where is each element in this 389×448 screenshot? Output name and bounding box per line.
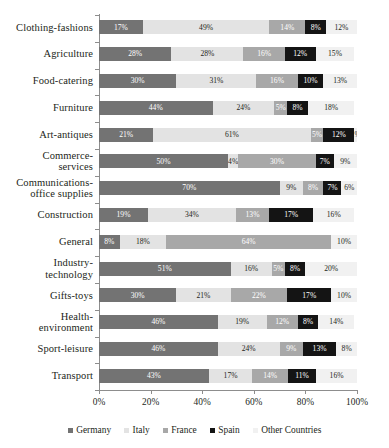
bar-segment-germany: 19% (99, 208, 148, 222)
category-label-line: Construction (0, 209, 93, 220)
bar-segment-italy: 31% (176, 74, 256, 88)
category-label-line: office supplies (0, 188, 93, 199)
category-label-line: Transport (0, 370, 93, 381)
category-tick (95, 283, 99, 284)
legend-item-spain[interactable]: Spain (210, 424, 240, 436)
category-label-transport: Transport (0, 370, 99, 381)
bar-segment-other-countries: 6% (341, 181, 356, 195)
bar-segment-italy: 16% (231, 262, 272, 276)
legend-swatch-icon (68, 428, 73, 433)
category-tick (95, 15, 99, 16)
bar-segment-other-countries: 10% (331, 235, 357, 249)
bar-segment-spain: 8% (287, 101, 308, 115)
stacked-bar: 50%4%30%7%9% (99, 154, 357, 168)
value-axis-tick-labels: 0%20%40%60%80%100% (0, 396, 389, 410)
bar-segment-france: 16% (256, 74, 297, 88)
bar-segment-other-countries: 13% (323, 74, 357, 88)
category-label-general: General (0, 236, 99, 247)
bar-segment-spain: 10% (298, 74, 324, 88)
bar-row: Sport-leisure46%24%9%13%8% (0, 336, 389, 363)
bar-segment-italy: 9% (280, 181, 303, 195)
value-axis-tick (254, 390, 255, 394)
legend-item-other-countries[interactable]: Other Countries (253, 424, 322, 436)
legend-item-germany[interactable]: Germany (68, 424, 111, 436)
category-label-industry-technology: Industry-technology (0, 257, 99, 280)
bar-track: 19%34%13%17%16% (99, 202, 357, 229)
bar-row: Industry-technology51%16%5%8%20% (0, 255, 389, 282)
bar-segment-germany: 8% (99, 235, 120, 249)
category-label-health-environment: Health-environment (0, 311, 99, 334)
bar-row: Commerce-services50%4%30%7%9% (0, 148, 389, 175)
value-axis-tick-label: 80% (297, 396, 314, 408)
bar-segment-italy: 18% (120, 235, 166, 249)
bar-segment-other-countries: 20% (305, 262, 357, 276)
category-label-agriculture: Agriculture (0, 48, 99, 59)
bar-segment-germany: 46% (99, 315, 218, 329)
bar-segment-other-countries: 9% (334, 154, 357, 168)
bar-track: 17%49%14%8%12% (99, 14, 357, 41)
bar-segment-other-countries: 10% (331, 288, 357, 302)
bar-segment-italy: 34% (148, 208, 236, 222)
bar-segment-france: 13% (236, 208, 270, 222)
bar-row: Construction19%34%13%17%16% (0, 202, 389, 229)
category-tick (95, 337, 99, 338)
stacked-bar: 51%16%5%8%20% (99, 262, 357, 276)
plot-area: Clothing-fashions17%49%14%8%12%Agricultu… (0, 14, 389, 392)
category-label-art-antiques: Art-antiques (0, 129, 99, 140)
bar-row: Art-antiques21%61%5%12%1% (0, 121, 389, 148)
stacked-bar: 17%49%14%8%12% (99, 20, 357, 34)
bar-segment-france: 9% (280, 342, 303, 356)
bar-segment-italy: 24% (213, 101, 275, 115)
bar-track: 46%24%9%13%8% (99, 336, 357, 363)
bar-segment-italy: 21% (176, 288, 230, 302)
stacked-bar: 30%31%16%10%13% (99, 74, 357, 88)
category-label-line: Sport-leisure (0, 343, 93, 354)
category-label-line: Health- (61, 311, 93, 322)
category-label-line: Art-antiques (0, 129, 93, 140)
value-axis-tick-label: 60% (245, 396, 262, 408)
bar-segment-spain: 8% (298, 315, 319, 329)
legend-item-france[interactable]: France (163, 424, 197, 436)
category-label-line: Commerce- (43, 150, 93, 161)
bar-segment-other-countries: 8% (336, 342, 357, 356)
legend-item-italy[interactable]: Italy (124, 424, 150, 436)
stacked-bar: 28%28%16%12%15% (99, 47, 357, 61)
bar-segment-germany: 30% (99, 288, 176, 302)
stacked-bar: 43%17%14%11%16% (99, 369, 357, 383)
category-label-commerce-services: Commerce-services (0, 150, 99, 173)
bar-segment-france: 64% (166, 235, 331, 249)
category-tick (95, 256, 99, 257)
category-tick (95, 203, 99, 204)
bar-segment-italy: 4% (228, 154, 238, 168)
bar-segment-france: 8% (303, 181, 324, 195)
bar-segment-other-countries: 18% (308, 101, 354, 115)
bar-segment-other-countries: 16% (313, 208, 354, 222)
bar-segment-france: 30% (238, 154, 315, 168)
bar-segment-france: 5% (272, 262, 285, 276)
bar-row: Agriculture28%28%16%12%15% (0, 41, 389, 68)
bar-segment-germany: 70% (99, 181, 280, 195)
bar-segment-france: 14% (269, 20, 305, 34)
category-tick (95, 122, 99, 123)
legend-swatch-icon (253, 428, 258, 433)
bar-row: Transport43%17%14%11%16% (0, 362, 389, 389)
bar-segment-other-countries: 1% (354, 128, 357, 142)
bar-segment-germany: 50% (99, 154, 228, 168)
bar-segment-spain: 7% (316, 154, 334, 168)
category-label-line: Clothing-fashions (0, 22, 93, 33)
category-label-line: Agriculture (0, 48, 93, 59)
bar-segment-italy: 19% (218, 315, 267, 329)
bar-segment-spain: 13% (303, 342, 337, 356)
category-label-line: Industry- (54, 257, 93, 268)
category-tick (95, 229, 99, 230)
category-tick (95, 95, 99, 96)
bar-row: Health-environment46%19%12%8%14% (0, 309, 389, 336)
category-label-food-catering: Food-catering (0, 75, 99, 86)
bar-segment-germany: 17% (99, 20, 143, 34)
stacked-bar: 30%21%22%17%10% (99, 288, 357, 302)
bar-track: 46%19%12%8%14% (99, 309, 357, 336)
bar-row: Furniture44%24%5%8%18% (0, 94, 389, 121)
chart-legend: GermanyItalyFranceSpainOther Countries (0, 424, 389, 436)
legend-label: Other Countries (261, 424, 321, 436)
bar-segment-germany: 46% (99, 342, 218, 356)
